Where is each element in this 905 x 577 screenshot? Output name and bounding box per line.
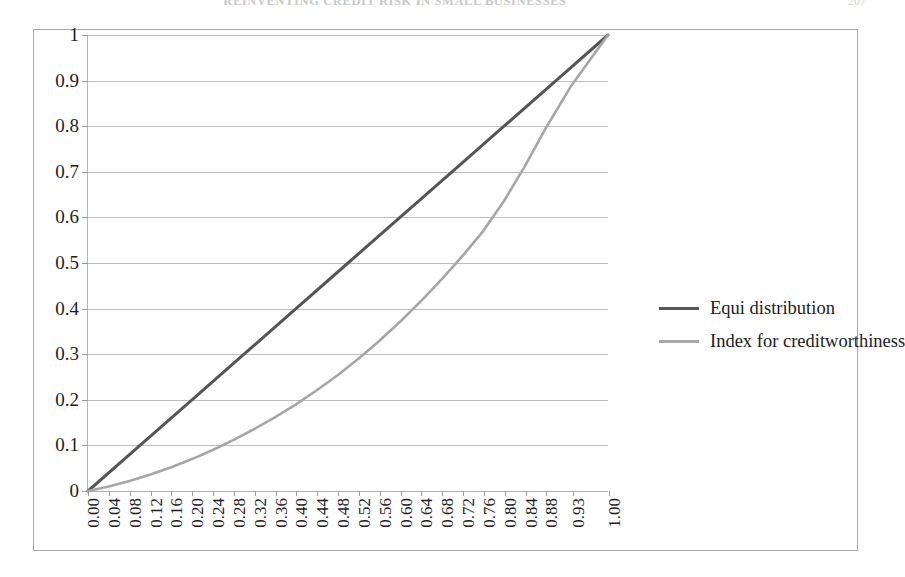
series-line bbox=[88, 35, 608, 491]
x-axis-tick-label: 0.56 bbox=[376, 498, 396, 528]
legend-item[interactable]: Index for creditworthiness bbox=[659, 325, 905, 358]
chart-legend: Equi distributionIndex for creditworthin… bbox=[659, 292, 905, 358]
x-axis-tick-label: 0.76 bbox=[480, 498, 500, 528]
page-header: REINVENTING CREDIT RISK IN SMALL BUSINES… bbox=[0, 0, 888, 14]
x-axis-tick-label: 0.24 bbox=[209, 498, 229, 528]
x-axis-tick-label: 0.36 bbox=[272, 498, 292, 528]
legend-item-label: Equi distribution bbox=[710, 298, 835, 319]
x-axis-tick bbox=[609, 491, 610, 496]
x-axis-tick-label: 0.12 bbox=[147, 498, 167, 528]
legend-item-label: Index for creditworthiness bbox=[710, 331, 905, 352]
x-axis-tick-label: 0.68 bbox=[438, 498, 458, 528]
x-axis-tick-label: 0.84 bbox=[522, 498, 542, 528]
x-axis-tick-label: 0.40 bbox=[292, 498, 312, 528]
x-axis-tick bbox=[442, 491, 443, 496]
x-axis-tick-label: 0.72 bbox=[459, 498, 479, 528]
y-axis-tick-label: 0.1 bbox=[55, 434, 79, 456]
page-folio-number: 207 bbox=[848, 0, 866, 9]
x-axis-tick bbox=[401, 491, 402, 496]
x-axis-tick bbox=[171, 491, 172, 496]
x-axis-tick bbox=[276, 491, 277, 496]
x-axis-tick bbox=[359, 491, 360, 496]
x-axis-tick bbox=[234, 491, 235, 496]
x-axis-tick bbox=[151, 491, 152, 496]
x-axis-tick-label: 0.00 bbox=[84, 498, 104, 528]
x-axis-tick-label: 0.64 bbox=[417, 498, 437, 528]
x-axis-tick bbox=[573, 491, 574, 496]
x-axis-tick-label: 1.00 bbox=[605, 498, 625, 528]
y-axis-tick-label: 0.2 bbox=[55, 388, 79, 410]
x-axis-tick-label: 0.44 bbox=[313, 498, 333, 528]
y-axis-tick-label: 0 bbox=[70, 480, 80, 502]
x-axis-tick bbox=[130, 491, 131, 496]
x-axis-tick-label: 0.32 bbox=[251, 498, 271, 528]
x-axis-tick-label: 0.52 bbox=[355, 498, 375, 528]
x-axis-tick bbox=[505, 491, 506, 496]
gridline bbox=[88, 491, 608, 492]
y-axis-tick-label: 0.4 bbox=[55, 297, 79, 319]
x-axis-tick bbox=[213, 491, 214, 496]
x-axis-tick bbox=[421, 491, 422, 496]
y-axis-tick-label: 0.9 bbox=[55, 69, 79, 91]
x-axis-tick bbox=[484, 491, 485, 496]
x-axis-tick-label: 0.04 bbox=[105, 498, 125, 528]
plot-area: 00.10.20.30.40.50.60.70.80.91 0.000.040.… bbox=[87, 35, 608, 491]
legend-color-swatch bbox=[659, 307, 699, 310]
x-axis-tick bbox=[109, 491, 110, 496]
x-axis-tick-label: 0.93 bbox=[569, 498, 589, 528]
legend-item[interactable]: Equi distribution bbox=[659, 292, 905, 325]
x-axis-tick-label: 0.60 bbox=[397, 498, 417, 528]
x-axis-tick bbox=[296, 491, 297, 496]
x-axis-tick bbox=[463, 491, 464, 496]
x-axis-tick bbox=[526, 491, 527, 496]
y-axis-tick-label: 0.8 bbox=[55, 115, 79, 137]
page-header-title: REINVENTING CREDIT RISK IN SMALL BUSINES… bbox=[0, 0, 790, 9]
y-axis-tick-label: 0.7 bbox=[55, 160, 79, 182]
x-axis-tick-label: 0.80 bbox=[501, 498, 521, 528]
x-axis-tick-label: 0.48 bbox=[334, 498, 354, 528]
y-axis-tick-label: 0.5 bbox=[55, 252, 79, 274]
y-axis-tick-label: 0.6 bbox=[55, 206, 79, 228]
x-axis-tick-label: 0.08 bbox=[126, 498, 146, 528]
x-axis-tick bbox=[546, 491, 547, 496]
x-axis-tick-label: 0.20 bbox=[188, 498, 208, 528]
series-lines-group bbox=[88, 35, 608, 491]
x-axis-tick bbox=[380, 491, 381, 496]
x-axis-tick bbox=[192, 491, 193, 496]
x-axis-tick bbox=[317, 491, 318, 496]
x-axis-tick bbox=[255, 491, 256, 496]
x-axis-tick-label: 0.16 bbox=[167, 498, 187, 528]
x-axis-tick bbox=[338, 491, 339, 496]
chart-frame: 00.10.20.30.40.50.60.70.80.91 0.000.040.… bbox=[33, 29, 858, 551]
x-axis-tick-label: 0.88 bbox=[542, 498, 562, 528]
legend-color-swatch bbox=[659, 340, 699, 343]
x-axis-tick-label: 0.28 bbox=[230, 498, 250, 528]
y-axis-tick-label: 1 bbox=[70, 24, 80, 46]
y-axis-tick-label: 0.3 bbox=[55, 343, 79, 365]
